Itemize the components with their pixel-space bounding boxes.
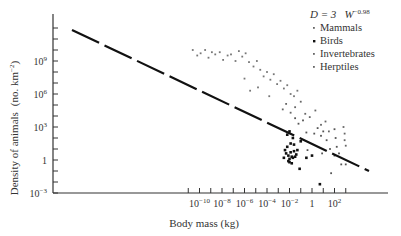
data-point bbox=[256, 60, 258, 62]
x-tick-label: 10−6 bbox=[236, 197, 254, 209]
data-point bbox=[282, 109, 284, 111]
data-point bbox=[280, 80, 282, 82]
legend-marker bbox=[313, 40, 315, 42]
data-point bbox=[300, 101, 302, 103]
data-point bbox=[293, 95, 295, 97]
legend-item-label: Invertebrates bbox=[320, 48, 375, 59]
data-point bbox=[289, 142, 292, 145]
data-point bbox=[214, 54, 216, 56]
data-point bbox=[245, 52, 247, 54]
legend-item-label: Birds bbox=[320, 35, 343, 46]
data-point bbox=[286, 146, 289, 149]
x-tick-label: 10−2 bbox=[281, 197, 299, 209]
data-point bbox=[285, 103, 287, 105]
data-point bbox=[204, 49, 206, 51]
data-point bbox=[235, 60, 237, 62]
data-point bbox=[244, 78, 246, 80]
data-point bbox=[263, 76, 265, 78]
data-point bbox=[208, 57, 210, 59]
data-point bbox=[343, 126, 345, 128]
data-point bbox=[321, 153, 323, 155]
data-point bbox=[219, 51, 221, 53]
data-point bbox=[192, 49, 194, 51]
x-tick-label: 10−8 bbox=[213, 197, 231, 209]
data-point bbox=[230, 54, 232, 56]
data-point bbox=[335, 137, 337, 139]
legend-item-label: Herptiles bbox=[320, 61, 359, 72]
data-point bbox=[294, 117, 296, 119]
data-point bbox=[294, 106, 296, 108]
data-point bbox=[286, 84, 288, 86]
data-point bbox=[338, 153, 340, 155]
y-axis-label: Density of animals(no. km−2) bbox=[8, 60, 21, 195]
data-point bbox=[227, 55, 229, 57]
legend-marker bbox=[313, 53, 315, 55]
data-point bbox=[269, 79, 271, 81]
data-point bbox=[293, 143, 296, 146]
data-point bbox=[319, 183, 322, 186]
data-point bbox=[305, 132, 307, 134]
data-point bbox=[268, 95, 270, 97]
data-point bbox=[259, 69, 261, 71]
data-point bbox=[289, 151, 292, 154]
svg-text:Density of animals(no. km−2): Density of animals(no. km−2) bbox=[8, 60, 21, 195]
data-point bbox=[276, 83, 278, 85]
series-mammals bbox=[294, 117, 346, 174]
data-point bbox=[285, 152, 288, 155]
data-point bbox=[273, 73, 275, 75]
data-point bbox=[284, 149, 287, 152]
data-point bbox=[329, 148, 331, 150]
data-point bbox=[334, 128, 336, 130]
data-point bbox=[200, 52, 202, 54]
data-point bbox=[292, 137, 295, 140]
data-point bbox=[328, 131, 330, 133]
chart-canvas: 109106103110−310−1010−810−610−410−21102 … bbox=[0, 0, 401, 236]
data-point bbox=[344, 133, 346, 135]
data-point bbox=[253, 66, 255, 68]
data-point bbox=[296, 90, 298, 92]
data-point bbox=[296, 149, 299, 152]
data-point bbox=[290, 93, 292, 95]
data-point bbox=[314, 110, 316, 112]
data-point bbox=[295, 153, 298, 156]
data-point bbox=[196, 55, 198, 57]
y-tick-label: 106 bbox=[34, 88, 48, 100]
data-point bbox=[345, 164, 347, 166]
x-tick-label: 10−4 bbox=[258, 197, 276, 209]
data-point bbox=[287, 160, 290, 163]
data-point bbox=[293, 150, 296, 153]
data-point bbox=[340, 164, 342, 166]
y-tick-label: 10−3 bbox=[30, 187, 48, 199]
legend-equation: D = 3W−0.98 bbox=[309, 8, 370, 20]
y-tick-label: 109 bbox=[34, 55, 48, 67]
legend-item-label: Mammals bbox=[320, 22, 362, 33]
data-point bbox=[222, 59, 224, 61]
data-point bbox=[320, 124, 322, 126]
data-point bbox=[292, 157, 295, 160]
data-point bbox=[304, 113, 306, 115]
data-point bbox=[313, 133, 315, 135]
data-point bbox=[266, 71, 268, 73]
data-point bbox=[299, 140, 302, 143]
data-point bbox=[320, 135, 322, 137]
data-point bbox=[238, 50, 240, 52]
data-point bbox=[298, 123, 300, 125]
data-point bbox=[345, 145, 347, 147]
legend: D = 3W−0.98 MammalsBirdsInvertebratesHer… bbox=[309, 8, 375, 72]
data-point bbox=[311, 154, 314, 157]
data-point bbox=[336, 146, 338, 148]
x-tick-label: 102 bbox=[328, 197, 342, 209]
data-point bbox=[322, 131, 324, 133]
y-tick-label: 1 bbox=[42, 155, 47, 166]
legend-marker bbox=[313, 27, 315, 29]
data-point bbox=[330, 172, 332, 174]
data-point bbox=[287, 154, 290, 157]
x-tick-label: 10−10 bbox=[189, 197, 210, 209]
data-point bbox=[309, 116, 311, 118]
data-point bbox=[249, 90, 251, 92]
y-tick-label: 103 bbox=[34, 121, 48, 133]
series-invertebrates bbox=[192, 49, 298, 97]
data-point bbox=[307, 149, 309, 151]
data-point bbox=[326, 139, 328, 141]
data-point bbox=[211, 51, 213, 53]
